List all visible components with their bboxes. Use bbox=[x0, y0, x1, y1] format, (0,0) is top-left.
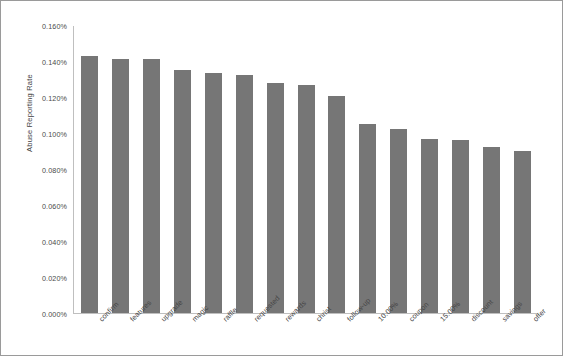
bar-series bbox=[74, 26, 538, 313]
x-tick-label: confirm bbox=[97, 317, 103, 323]
bar[interactable] bbox=[390, 129, 407, 314]
bar[interactable] bbox=[298, 85, 315, 313]
x-tick-label: requested bbox=[252, 317, 258, 323]
x-tick-label: 10.00% bbox=[376, 317, 382, 323]
bar-slot bbox=[198, 26, 229, 313]
x-tick-label: magic bbox=[190, 317, 196, 323]
y-tick-label: 0.060% bbox=[42, 202, 67, 211]
bar[interactable] bbox=[328, 96, 345, 313]
y-tick-label: 0.120% bbox=[42, 94, 67, 103]
bar[interactable] bbox=[359, 124, 376, 313]
x-tick-label: christ bbox=[314, 317, 320, 323]
x-tick-label: discount bbox=[469, 317, 475, 323]
y-tick-label: 0.080% bbox=[42, 166, 67, 175]
x-tick-label: upgrade bbox=[159, 317, 165, 323]
bar-slot bbox=[105, 26, 136, 313]
bar-slot bbox=[229, 26, 260, 313]
bar[interactable] bbox=[112, 59, 129, 313]
y-tick-label: 0.020% bbox=[42, 274, 67, 283]
bar-slot bbox=[352, 26, 383, 313]
bar[interactable] bbox=[143, 59, 160, 313]
bar-slot bbox=[445, 26, 476, 313]
bar[interactable] bbox=[421, 139, 438, 313]
x-tick-label: rewards bbox=[283, 317, 289, 323]
x-tick-label: 15.00% bbox=[438, 317, 444, 323]
bar[interactable] bbox=[483, 147, 500, 314]
y-tick-label: 0.160% bbox=[42, 22, 67, 31]
x-tick-label: offer bbox=[531, 317, 537, 323]
bar-slot bbox=[414, 26, 445, 313]
x-tick-label: features bbox=[128, 317, 134, 323]
bar-slot bbox=[383, 26, 414, 313]
x-tick-label: savings bbox=[500, 317, 506, 323]
bar-slot bbox=[167, 26, 198, 313]
bar-chart: Abuse Reporting Rate 0.160%0.140%0.120%0… bbox=[0, 0, 563, 356]
bar[interactable] bbox=[267, 83, 284, 313]
bar-slot bbox=[291, 26, 322, 313]
x-tick-label: raffle bbox=[221, 317, 227, 323]
y-tick-label: 0.100% bbox=[42, 130, 67, 139]
bar-slot bbox=[260, 26, 291, 313]
bar[interactable] bbox=[514, 151, 531, 313]
y-axis-title: Abuse Reporting Rate bbox=[25, 0, 39, 263]
bar-slot bbox=[507, 26, 538, 313]
x-tick-label: follow-up bbox=[345, 317, 351, 323]
bar[interactable] bbox=[81, 56, 98, 313]
bar[interactable] bbox=[174, 70, 191, 313]
bar-slot bbox=[74, 26, 105, 313]
y-tick-label: 0.040% bbox=[42, 238, 67, 247]
bar[interactable] bbox=[452, 140, 469, 313]
plot-area: 0.160%0.140%0.120%0.100%0.080%0.060%0.04… bbox=[73, 26, 538, 314]
bar-slot bbox=[322, 26, 353, 313]
y-tick-label: 0.000% bbox=[42, 310, 67, 319]
x-tick-label: coupon bbox=[407, 317, 413, 323]
bar[interactable] bbox=[205, 73, 222, 313]
y-tick-label: 0.140% bbox=[42, 58, 67, 67]
x-axis-ticks: confirmfeaturesupgrademagicrafflerequest… bbox=[74, 315, 539, 357]
bar-slot bbox=[476, 26, 507, 313]
bar-slot bbox=[136, 26, 167, 313]
bar[interactable] bbox=[236, 75, 253, 314]
